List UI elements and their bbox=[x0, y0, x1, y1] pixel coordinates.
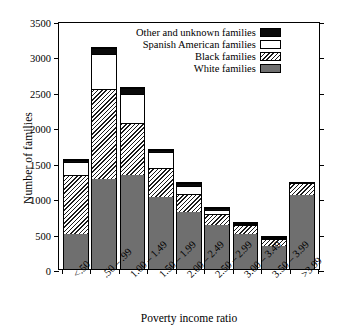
y-tick-label: 500 bbox=[35, 230, 51, 241]
bar-3[interactable] bbox=[120, 87, 146, 269]
x-axis-tick-labels: <.50.50 – .991.00 – 1.491.50 – 1.992.00 … bbox=[58, 272, 320, 314]
y-tick-right bbox=[319, 129, 324, 130]
y-tick-right bbox=[319, 23, 324, 24]
y-tick-right bbox=[319, 200, 324, 201]
legend-label: White families bbox=[194, 63, 256, 74]
y-tick-label: 3500 bbox=[30, 18, 51, 29]
bar-segment-spanish bbox=[64, 162, 88, 175]
legend-label: Other and unknown families bbox=[136, 27, 256, 38]
legend-item-1: Other and unknown families bbox=[136, 27, 281, 38]
legend-swatch bbox=[260, 40, 281, 49]
bar-segment-black bbox=[92, 89, 116, 179]
bar-segment-spanish bbox=[149, 152, 173, 168]
legend: Other and unknown familiesSpanish Americ… bbox=[136, 27, 281, 74]
bar-segment-black bbox=[149, 168, 173, 197]
bar-segment-black bbox=[121, 123, 145, 175]
legend-label: Spanish American families bbox=[143, 39, 256, 50]
y-tick-right bbox=[319, 58, 324, 59]
bar-segment-black bbox=[205, 214, 229, 226]
y-tick-right bbox=[319, 94, 324, 95]
bar-segment-spanish bbox=[121, 94, 145, 123]
y-tick-right bbox=[319, 165, 324, 166]
y-tick-label: 1500 bbox=[30, 159, 51, 170]
y-tick-label: 1000 bbox=[30, 195, 51, 206]
x-axis-title: Poverty income ratio bbox=[58, 312, 320, 324]
legend-swatch bbox=[260, 52, 281, 61]
bar-segment-spanish bbox=[92, 54, 116, 89]
legend-item-4: White families bbox=[136, 63, 281, 74]
y-tick-right bbox=[319, 236, 324, 237]
bar-segment-black bbox=[290, 183, 314, 195]
y-tick-label: 2000 bbox=[30, 124, 51, 135]
bar-2[interactable] bbox=[91, 47, 117, 269]
bar-segment-black bbox=[234, 225, 258, 234]
bar-1[interactable] bbox=[63, 159, 89, 269]
legend-item-3: Black families bbox=[136, 51, 281, 62]
y-tick-label: 2500 bbox=[30, 88, 51, 99]
bar-segment-white bbox=[92, 179, 116, 269]
poverty-income-ratio-chart: Number of families 050010001500200025003… bbox=[0, 0, 340, 333]
y-tick-label: 0 bbox=[46, 266, 51, 277]
bar-segment-black bbox=[64, 175, 88, 234]
y-tick-label: 3000 bbox=[30, 53, 51, 64]
bar-segment-spanish bbox=[177, 186, 201, 194]
legend-swatch bbox=[260, 28, 281, 37]
y-axis-title: Number of families bbox=[22, 78, 34, 238]
legend-label: Black families bbox=[195, 51, 256, 62]
legend-item-2: Spanish American families bbox=[136, 39, 281, 50]
legend-swatch bbox=[260, 64, 281, 73]
bar-segment-black bbox=[177, 194, 201, 213]
